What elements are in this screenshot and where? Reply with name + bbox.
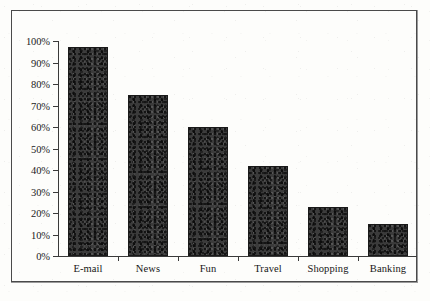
bar-shopping <box>308 207 348 256</box>
y-axis-tick-label: 60% <box>31 122 50 133</box>
y-axis-tick <box>53 235 58 236</box>
y-axis-tick <box>53 213 58 214</box>
y-axis-tick-label: 40% <box>31 165 50 176</box>
y-axis-tick <box>53 192 58 193</box>
y-axis-tick <box>53 149 58 150</box>
y-axis-tick-label: 90% <box>31 57 50 68</box>
x-axis-tick <box>118 256 119 261</box>
y-axis-tick-label: 50% <box>31 143 50 154</box>
y-axis-tick <box>53 106 58 107</box>
x-axis-tick <box>358 256 359 261</box>
y-axis-tick-label: 70% <box>31 100 50 111</box>
x-axis-category-label: Shopping <box>307 263 348 274</box>
bar-fun <box>188 127 228 256</box>
chart-border-frame: 0%10%20%30%40%50%60%70%80%90%100% E-mail… <box>11 10 417 282</box>
x-axis-tick <box>178 256 179 261</box>
bar-e-mail <box>68 47 108 256</box>
y-axis-line <box>58 41 59 256</box>
bar-banking <box>368 224 408 256</box>
x-axis-category-label: Banking <box>370 263 406 274</box>
bar-travel <box>248 166 288 256</box>
y-axis-tick <box>53 63 58 64</box>
y-axis-tick-label: 100% <box>26 36 50 47</box>
x-axis-category-label: Fun <box>200 263 217 274</box>
x-axis-tick <box>238 256 239 261</box>
y-axis-tick-label: 10% <box>31 229 50 240</box>
y-axis-tick-label: 30% <box>31 186 50 197</box>
x-axis-category-label: News <box>136 263 160 274</box>
y-axis-tick <box>53 41 58 42</box>
y-axis-tick <box>53 127 58 128</box>
y-axis-tick <box>53 256 58 257</box>
y-axis-tick <box>53 84 58 85</box>
x-axis-category-label: Travel <box>254 263 282 274</box>
plot-area: 0%10%20%30%40%50%60%70%80%90%100% E-mail… <box>58 41 418 256</box>
y-axis-tick-label: 20% <box>31 208 50 219</box>
bar-news <box>128 95 168 256</box>
y-axis-tick-label: 80% <box>31 79 50 90</box>
y-axis-tick <box>53 170 58 171</box>
x-axis-tick <box>298 256 299 261</box>
chart-page: 0%10%20%30%40%50%60%70%80%90%100% E-mail… <box>0 0 430 301</box>
y-axis-tick-label: 0% <box>36 251 50 262</box>
x-axis-category-label: E-mail <box>73 263 102 274</box>
